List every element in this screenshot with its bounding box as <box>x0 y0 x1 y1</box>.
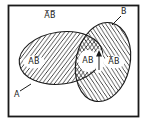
region-label-outside: A̅B̅ <box>44 12 56 20</box>
venn-diagram-canvas <box>0 0 149 124</box>
region-label-intersection: AB <box>82 57 94 65</box>
region-label-a-only: AB̅ <box>28 58 40 66</box>
venn-diagram-figure: A̅B̅ AB̅ AB A̅B A B <box>0 0 149 124</box>
set-b-label: B <box>121 8 127 16</box>
set-a-label: A <box>14 91 20 99</box>
region-label-b-only: A̅B <box>108 58 120 66</box>
